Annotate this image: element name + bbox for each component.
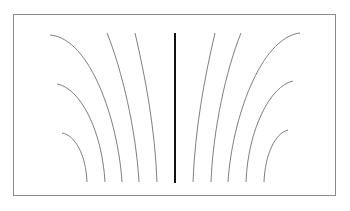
- right-field-line-4: [246, 81, 293, 182]
- right-field-lines: [193, 33, 300, 182]
- field-line-diagram: [0, 0, 350, 211]
- left-field-line-4: [107, 33, 139, 182]
- left-field-line-3: [50, 35, 122, 182]
- right-field-line-5: [264, 130, 288, 182]
- right-field-line-2: [211, 33, 241, 182]
- right-field-line-3: [228, 33, 300, 182]
- left-field-line-2: [57, 84, 105, 182]
- left-field-line-1: [62, 133, 87, 182]
- left-field-line-5: [135, 33, 157, 182]
- left-field-lines: [50, 33, 157, 182]
- right-field-line-1: [193, 33, 215, 182]
